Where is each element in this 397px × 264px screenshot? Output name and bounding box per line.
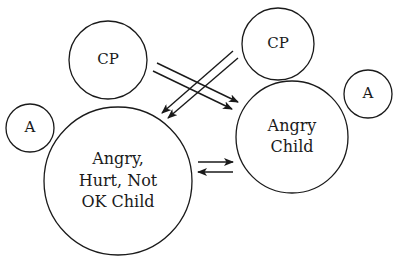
- nodes-layer: CPCPAAAngry,Hurt, NotOK ChildAngryChild: [6, 8, 392, 255]
- node-cp-left: CP: [69, 21, 147, 99]
- node-label: CP: [97, 50, 119, 68]
- node-label: CP: [267, 34, 289, 52]
- node-cp-right: CP: [242, 8, 314, 80]
- node-label: Angry,: [91, 149, 144, 168]
- node-a-left: A: [6, 104, 54, 152]
- node-label: OK Child: [81, 192, 154, 211]
- node-angry-child: AngryChild: [236, 81, 348, 193]
- arrow-cp-left-to-angry-child-2: [153, 71, 232, 109]
- node-label: A: [362, 84, 374, 102]
- arrow-cp-right-to-hurt-child-2: [168, 58, 238, 118]
- transactional-diagram: CPCPAAAngry,Hurt, NotOK ChildAngryChild: [0, 0, 397, 264]
- node-a-right: A: [344, 70, 392, 118]
- node-label: A: [24, 118, 36, 136]
- node-label: Angry: [267, 116, 317, 135]
- node-label: Child: [270, 137, 313, 156]
- node-label: Hurt, Not: [79, 171, 158, 190]
- node-angry-hurt-not-ok-child: Angry,Hurt, NotOK Child: [44, 107, 192, 255]
